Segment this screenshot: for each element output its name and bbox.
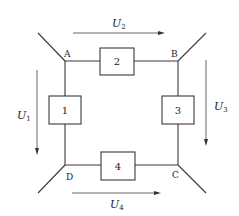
- u3-arrowhead-icon: [204, 139, 208, 146]
- element-2-label: 2: [114, 56, 120, 67]
- u4-label: U4: [110, 198, 124, 212]
- node-d-label: D: [66, 172, 73, 182]
- element-4-label: 4: [115, 161, 121, 172]
- node-a-label: A: [63, 49, 71, 59]
- u3-label: U3: [214, 100, 228, 114]
- u1-label: U1: [17, 109, 31, 123]
- lead-b: [178, 33, 206, 61]
- node-c-label: C: [172, 170, 179, 180]
- element-1-label: 1: [62, 105, 68, 116]
- lead-c: [178, 165, 206, 193]
- u2-label: U2: [112, 17, 126, 31]
- u2-arrowhead-icon: [158, 31, 165, 35]
- u1-arrowhead-icon: [35, 148, 39, 155]
- node-b-label: B: [171, 49, 178, 59]
- lead-a: [38, 33, 65, 61]
- lead-d: [38, 165, 65, 193]
- u4-arrowhead-icon: [154, 191, 161, 195]
- circuit-diagram: 2 1 3 4 A B C D U2 U1 U3 U4: [0, 0, 239, 216]
- element-3-label: 3: [175, 105, 181, 116]
